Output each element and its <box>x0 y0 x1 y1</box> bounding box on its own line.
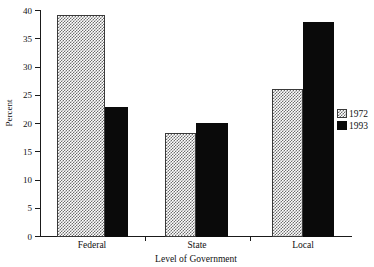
y-axis-line <box>40 10 41 237</box>
y-tick-1: 5 <box>35 208 40 209</box>
y-tick-label-7: 35 <box>23 34 32 43</box>
y-tick-2: 10 <box>35 180 40 181</box>
x-axis-title: Level of Government <box>40 254 352 264</box>
bar-state-1993 <box>196 123 228 237</box>
y-tick-label-6: 30 <box>23 63 32 72</box>
bar-local-1993 <box>303 22 334 237</box>
legend-swatch-1993 <box>337 121 347 130</box>
legend-item-1993: 1993 <box>337 120 368 131</box>
y-tick-label-2: 10 <box>23 176 32 185</box>
bar-federal-1993 <box>105 107 128 237</box>
bar-local-1972 <box>272 89 303 237</box>
x-category-label-local: Local <box>263 240 343 251</box>
y-tick-4: 20 <box>35 123 40 124</box>
y-tick-label-0: 0 <box>28 232 33 241</box>
x-tick-separator-2 <box>250 236 251 241</box>
y-tick-label-8: 40 <box>23 6 32 15</box>
y-tick-5: 25 <box>35 95 40 96</box>
bar-chart: 0 5 10 15 20 25 30 35 40 Percent Federal… <box>0 0 374 267</box>
x-category-label-federal: Federal <box>52 240 132 251</box>
y-tick-8: 40 <box>35 10 40 11</box>
legend: 1972 1993 <box>337 108 368 132</box>
x-tick-separator-1 <box>145 236 146 241</box>
x-category-label-state: State <box>157 240 237 251</box>
legend-label-1972: 1972 <box>349 109 368 119</box>
y-tick-label-4: 20 <box>23 119 32 128</box>
bar-state-1972 <box>165 133 196 237</box>
y-axis-title: Percent <box>4 83 14 143</box>
y-tick-label-1: 5 <box>28 204 33 213</box>
legend-label-1993: 1993 <box>349 121 368 131</box>
y-tick-6: 30 <box>35 67 40 68</box>
bar-federal-1972 <box>57 15 105 237</box>
y-tick-label-3: 15 <box>23 147 32 156</box>
legend-item-1972: 1972 <box>337 108 368 119</box>
y-tick-label-5: 25 <box>23 91 32 100</box>
y-tick-3: 15 <box>35 151 40 152</box>
y-tick-7: 35 <box>35 38 40 39</box>
legend-swatch-1972 <box>337 109 347 118</box>
